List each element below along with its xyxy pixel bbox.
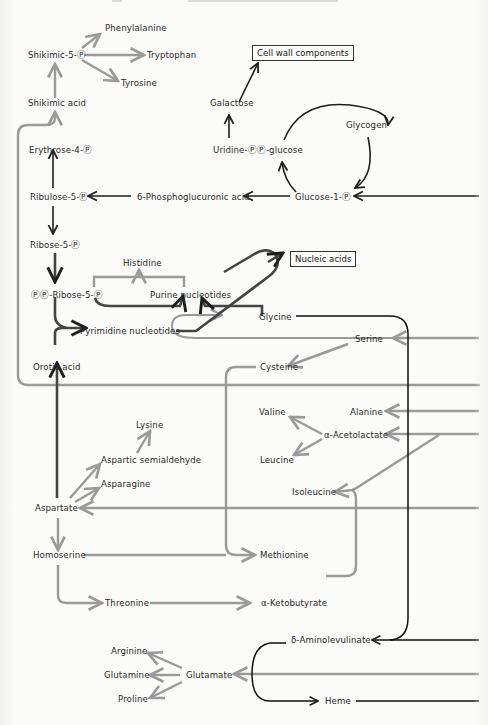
cell-wall-components-box: Cell wall components — [252, 45, 354, 61]
node-homoserine: Homoserine — [33, 550, 86, 560]
node-aspartic-semialdehyde: Aspartic semialdehyde — [101, 455, 201, 465]
node-tyrosine: Tyrosine — [121, 78, 157, 88]
node-methionine: Methionine — [260, 550, 309, 560]
node-cysteine: Cysteine — [260, 362, 298, 372]
page-edge-shadow — [474, 0, 488, 725]
node-aspartate: Aspartate — [35, 503, 78, 513]
node-histidine: Histidine — [123, 258, 162, 268]
node-leucine: Leucine — [260, 455, 294, 465]
node-ribulose-5-p: Ribulose-5-Ⓟ — [30, 192, 89, 202]
node-heme: Heme — [325, 696, 351, 706]
node-erythrose-4-p: Erythrose-4-Ⓟ — [29, 145, 92, 155]
node-lysine: Lysine — [136, 420, 163, 430]
node-glutamate: Glutamate — [186, 670, 232, 680]
node-threonine: Threonine — [105, 598, 149, 608]
metabolic-pathway-diagram: Cell wall components Nucleic acids Pheny… — [0, 0, 488, 725]
node-ribose-5-p: Ribose-5-Ⓟ — [30, 240, 81, 250]
node-orotic-acid: Orotic acid — [33, 362, 81, 372]
node-glycogen: Glycogen — [346, 120, 387, 130]
node-udp-glucose: Uridine-ⓅⓅ-glucose — [213, 145, 303, 155]
node-prpp: ⓅⓅ-Ribose-5-Ⓟ — [31, 290, 103, 300]
node-proline: Proline — [118, 694, 148, 704]
node-pyrimidine-nucleotides: Pyrimidine nucleotides — [80, 326, 180, 336]
node-tryptophan: Tryptophan — [147, 50, 196, 60]
node-arginine: Arginine — [111, 646, 147, 656]
node-valine: Valine — [259, 407, 286, 417]
node-phenylalanine: Phenylalanine — [105, 23, 167, 33]
node-6-phosphoglucuronic-acid: 6-Phosphoglucuronic acid — [137, 192, 250, 202]
node-alpha-acetolactate: α-Acetolactate — [324, 430, 388, 440]
node-alpha-ketobutyrate: α-Ketobutyrate — [261, 598, 327, 608]
node-galactose: Galactose — [210, 98, 254, 108]
node-shikimic-5-p: Shikimic-5-Ⓟ — [28, 50, 86, 60]
node-purine-nucleotides: Purine nucleotides — [150, 290, 231, 300]
node-isoleucine: Isoleucine — [292, 487, 336, 497]
node-glutamine: Glutamine — [104, 670, 150, 680]
node-serine: Serine — [355, 334, 383, 344]
node-delta-aminolevulinate: δ-Aminolevulinate — [291, 635, 371, 645]
nucleic-acids-box: Nucleic acids — [290, 251, 356, 267]
node-alanine: Alanine — [350, 407, 383, 417]
node-glucose-1-p: Glucose-1-Ⓟ — [295, 192, 351, 202]
page-gutter-shadow — [0, 0, 14, 725]
node-shikimic-acid: Shikimic acid — [28, 98, 86, 108]
node-asparagine: Asparagine — [101, 479, 150, 489]
node-glycine: Glycine — [259, 312, 292, 322]
